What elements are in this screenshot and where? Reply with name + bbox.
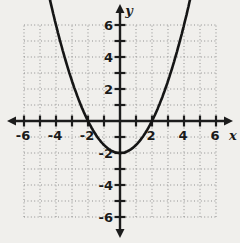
x-tick-label: 6 — [210, 128, 219, 143]
x-tick-label: -6 — [16, 128, 30, 143]
parabola-graph-figure: -6-4-2246642-2-4-6xy — [0, 0, 240, 243]
coordinate-plane-chart: -6-4-2246642-2-4-6xy — [0, 0, 240, 243]
y-axis-up-arrow-icon — [116, 4, 125, 13]
y-axis-label: y — [124, 3, 134, 18]
y-tick-label: -4 — [99, 178, 113, 193]
x-tick-label: 4 — [178, 128, 187, 143]
y-tick-label: 2 — [104, 82, 113, 97]
x-axis-right-arrow-icon — [224, 117, 233, 126]
x-axis-left-arrow-icon — [7, 117, 16, 126]
x-tick-label: -4 — [48, 128, 62, 143]
y-axis-down-arrow-icon — [116, 229, 125, 238]
y-tick-label: 4 — [104, 50, 113, 65]
y-tick-label: 6 — [104, 18, 113, 33]
y-tick-label: -6 — [99, 210, 113, 225]
x-axis-label: x — [228, 128, 237, 143]
